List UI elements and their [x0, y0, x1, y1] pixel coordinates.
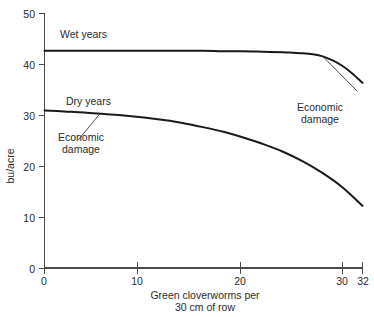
series-label-wet-years: Wet years: [60, 28, 107, 40]
annotation-label-economic-damage-wet-line2: damage: [301, 113, 339, 125]
x-axis-ticks: 0 10 20 30 32: [41, 262, 369, 287]
x-tick-label-32: 32: [357, 275, 369, 287]
annotation-label-economic-damage-dry-line2: damage: [62, 143, 100, 155]
x-tick-label-20: 20: [234, 275, 246, 287]
annotation-label-economic-damage-wet-line1: Economic: [297, 101, 343, 113]
series-label-dry-years: Dry years: [66, 95, 111, 107]
series-curve-wet-years: [45, 51, 363, 83]
annotation-economic-damage-dry: Economic damage: [58, 113, 104, 155]
y-tick-label-0: 0: [29, 263, 35, 275]
x-tick-label-0: 0: [41, 275, 47, 287]
chart-page: 50 40 30 20 10 0 0 10 20 30 32 bu/acre G…: [0, 0, 374, 317]
y-axis-ticks: 50 40 30 20 10 0: [23, 8, 44, 275]
y-tick-label-40: 40: [23, 59, 35, 71]
y-tick-label-10: 10: [23, 212, 35, 224]
y-tick-label-20: 20: [23, 161, 35, 173]
y-axis-title: bu/acre: [4, 148, 16, 183]
y-tick-label-50: 50: [23, 8, 35, 20]
x-axis-title-line1: Green cloverworms per: [150, 289, 260, 301]
annotation-label-economic-damage-dry-line1: Economic: [58, 131, 104, 143]
yield-vs-cloverworm-chart: 50 40 30 20 10 0 0 10 20 30 32 bu/acre G…: [0, 0, 374, 317]
y-tick-label-30: 30: [23, 110, 35, 122]
x-tick-label-30: 30: [336, 275, 348, 287]
annotation-economic-damage-wet: Economic damage: [297, 56, 358, 125]
x-tick-label-10: 10: [131, 275, 143, 287]
x-axis-title-line2: 30 cm of row: [175, 301, 236, 313]
